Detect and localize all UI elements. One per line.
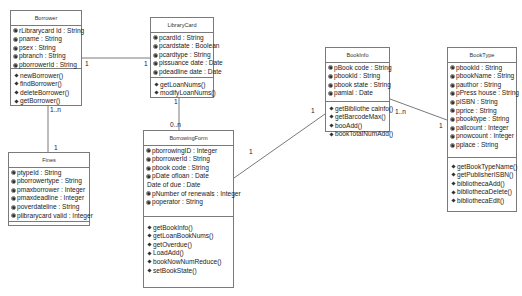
operation-icon xyxy=(148,252,152,256)
operation: bookTotalNumAdd() xyxy=(330,130,388,139)
attribute: pcardtype : String xyxy=(153,51,212,60)
attribute-icon xyxy=(153,44,158,49)
attribute-list: pcardId : String pcardstate : Boolean pc… xyxy=(151,33,213,78)
attribute-icon xyxy=(450,100,455,105)
operation-icon xyxy=(15,74,19,78)
attribute: pbookName : String xyxy=(450,72,515,81)
operation-icon xyxy=(452,199,456,203)
operation: getBookInfo() xyxy=(148,224,232,233)
attribute-icon xyxy=(11,170,16,175)
attribute-icon xyxy=(328,83,333,88)
operation-icon xyxy=(148,269,152,273)
attribute: pbook code : String xyxy=(146,164,232,173)
attribute-icon xyxy=(450,83,455,88)
attribute-icon xyxy=(450,117,455,122)
attribute-icon xyxy=(11,188,16,193)
attribute-icon xyxy=(13,63,18,68)
attribute-icon xyxy=(11,179,16,184)
operation-list: newBorrower() findBorrower() deleteBorro… xyxy=(11,69,81,107)
attribute-icon xyxy=(153,35,158,40)
attribute: pplace : String xyxy=(450,141,515,150)
mult-borrower-to-fines: 1..n xyxy=(50,106,61,113)
attribute-icon xyxy=(153,53,158,58)
attribute: pmaxdeadline : Integer xyxy=(11,194,88,203)
attribute-icon xyxy=(450,143,455,148)
attribute-icon xyxy=(450,65,455,70)
operation-icon xyxy=(155,83,159,87)
attribute-icon xyxy=(146,148,151,153)
class-title: Borrower xyxy=(11,11,81,26)
attribute: pborrowingID : Integer xyxy=(146,147,232,156)
class-title: BookType xyxy=(448,48,516,63)
class-title: BookInfo xyxy=(326,48,389,63)
operation: getLoanBookNums() xyxy=(148,232,232,241)
operation: getBookTypeName() xyxy=(452,163,515,172)
attribute: pissuance date : Date xyxy=(153,59,212,68)
attribute: pDate ofloan : Date xyxy=(146,172,232,181)
attribute: pname : String xyxy=(13,35,80,44)
attribute: plibrarycard valid : Integer xyxy=(11,212,88,221)
attribute: pauthor : String xyxy=(450,81,515,90)
attribute-icon xyxy=(13,46,18,51)
attribute-icon xyxy=(146,200,151,205)
operation: bookNowNumReduce() xyxy=(148,258,232,267)
attribute-icon xyxy=(13,28,18,33)
attribute-list: ptypeId : String pborrowertype : String … xyxy=(9,168,89,222)
attribute-icon xyxy=(11,213,16,218)
attribute-icon xyxy=(11,196,16,201)
attribute: pbranch : String xyxy=(13,52,80,61)
attribute: pISBN : String xyxy=(450,98,515,107)
mult-fines-from-borrower: 1 xyxy=(54,144,58,151)
attribute-icon xyxy=(450,91,455,96)
operation: getLoanNums() xyxy=(155,81,212,90)
attribute-icon xyxy=(153,61,158,66)
attribute-icon xyxy=(13,37,18,42)
attribute: pallcount : Integer xyxy=(450,124,515,133)
operation-icon xyxy=(148,243,152,247)
attribute: pmaxborrower : Integer xyxy=(11,186,88,195)
operation-icon xyxy=(148,260,152,264)
attribute: pbookId : String xyxy=(328,72,388,81)
class-bookinfo[interactable]: BookInfo pBook code : String pbookId : S… xyxy=(325,47,390,132)
class-borrower[interactable]: Borrower rLibrarycard Id : String pname … xyxy=(10,10,82,106)
attribute: pbookId : String xyxy=(450,64,515,73)
attribute-icon xyxy=(450,108,455,113)
operation-list: getBookTypeName() getPublisherISBN() bib… xyxy=(448,158,516,207)
operation: setBookState() xyxy=(148,267,232,276)
operation-icon xyxy=(452,173,456,177)
operation: getBarcodeMax() xyxy=(330,113,388,122)
class-fines[interactable]: Fines ptypeId : String pborrowertype : S… xyxy=(8,152,90,226)
attribute: pPress house : String xyxy=(450,89,515,98)
class-booktype[interactable]: BookType pbookId : String pbookName : St… xyxy=(447,47,517,212)
operation: newBorrower() xyxy=(15,72,80,81)
operation-icon xyxy=(15,82,19,86)
attribute-list: rLibrarycard Id : String pname : String … xyxy=(11,26,81,69)
attribute: pamial : Date xyxy=(328,89,388,98)
attribute: pcardstate : Boolean xyxy=(153,42,212,51)
mult-bookinfo-to-booktype: 1..n xyxy=(395,108,406,115)
operation-list: getLoanNums() modifyLoanNums() xyxy=(151,78,213,99)
operation: getOverdue() xyxy=(148,241,232,250)
attribute: pborrowertype : String xyxy=(11,177,88,186)
attribute: pBook code : String xyxy=(328,64,388,73)
mult-form-from-card: 0..n xyxy=(170,121,181,128)
mult-bookinfo-from-form: 1 xyxy=(311,107,315,114)
class-title: LibraryCard xyxy=(151,18,213,33)
operation: getBibliothe calnfo() xyxy=(330,105,388,114)
operation-icon xyxy=(452,165,456,169)
class-borrowingform[interactable]: BorrowingForm pborrowingID : Integer pbo… xyxy=(143,130,234,288)
attribute-icon xyxy=(450,126,455,131)
operation: booAdd() xyxy=(330,122,388,131)
attribute: pbooktype : String xyxy=(450,115,515,124)
attribute-icon xyxy=(328,91,333,96)
mult-form-to-bookinfo: 1 xyxy=(249,148,253,155)
attribute: pborrowerId : String xyxy=(146,155,232,164)
class-librarycard[interactable]: LibraryCard pcardId : String pcardstate … xyxy=(150,17,214,98)
link-borrowingform-bookinfo xyxy=(234,114,325,178)
operation-list xyxy=(9,222,89,226)
attribute-icon xyxy=(328,74,333,79)
attribute: pdeadline date : Date xyxy=(153,68,212,77)
operation: findBorrower() xyxy=(15,80,80,89)
mult-borrower-to-card: 1 xyxy=(85,60,89,67)
operation: LoadAdd() xyxy=(148,249,232,258)
